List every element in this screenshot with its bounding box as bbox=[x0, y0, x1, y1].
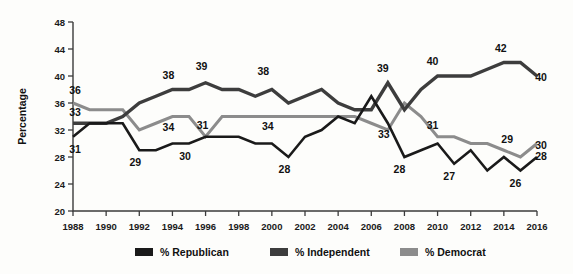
data-point-label: 36 bbox=[69, 84, 81, 96]
x-axis-tick-label: 1998 bbox=[228, 221, 249, 232]
x-axis-tick-label: 2016 bbox=[526, 221, 547, 232]
y-axis-title: Percentage bbox=[16, 88, 28, 145]
legend-label-republican: % Republican bbox=[160, 246, 229, 258]
y-axis-tick-label: 40 bbox=[54, 71, 65, 82]
x-axis-tick-label: 2010 bbox=[427, 221, 448, 232]
data-point-label: 33 bbox=[378, 128, 390, 140]
data-point-label: 34 bbox=[262, 120, 274, 132]
series-line-independent bbox=[73, 63, 537, 124]
y-axis-tick-label: 32 bbox=[54, 125, 65, 136]
data-point-label: 40 bbox=[535, 71, 547, 83]
y-axis-tick-label: 44 bbox=[54, 44, 65, 55]
data-point-label: 31 bbox=[69, 143, 81, 155]
legend-item[interactable]: % Democrat bbox=[400, 246, 486, 258]
x-axis-tick-label: 1990 bbox=[96, 221, 117, 232]
series-line-republican bbox=[73, 96, 537, 170]
data-point-label: 31 bbox=[197, 119, 209, 131]
data-point-label: 34 bbox=[163, 121, 175, 133]
data-point-label: 29 bbox=[129, 156, 141, 168]
x-axis-tick-label: 2004 bbox=[328, 221, 350, 232]
data-point-label: 33 bbox=[69, 106, 81, 118]
data-point-label: 30 bbox=[535, 139, 547, 151]
chart-container: 2024283236404448Percentage19881990199219… bbox=[0, 0, 573, 274]
legend-label-democrat: % Democrat bbox=[425, 246, 486, 258]
y-axis-tick-label: 28 bbox=[54, 152, 65, 163]
legend-item[interactable]: % Republican bbox=[135, 246, 229, 258]
data-point-label: 29 bbox=[501, 133, 513, 145]
data-point-label: 28 bbox=[535, 150, 547, 162]
x-axis-tick-label: 2012 bbox=[460, 221, 481, 232]
data-point-label: 28 bbox=[394, 163, 406, 175]
legend-swatch-independent bbox=[270, 248, 288, 256]
x-axis-tick-label: 2002 bbox=[294, 221, 315, 232]
y-axis-tick-label: 24 bbox=[54, 179, 65, 190]
x-axis-tick-label: 2014 bbox=[493, 221, 515, 232]
data-point-label: 42 bbox=[495, 42, 507, 54]
x-axis-tick-label: 2000 bbox=[261, 221, 282, 232]
x-axis-tick-label: 1988 bbox=[62, 221, 83, 232]
data-point-label: 30 bbox=[179, 150, 191, 162]
data-point-label: 38 bbox=[257, 65, 269, 77]
legend-item[interactable]: % Independent bbox=[270, 246, 370, 258]
data-point-label: 40 bbox=[427, 55, 439, 67]
legend-swatch-democrat bbox=[400, 248, 418, 256]
data-point-label: 39 bbox=[377, 62, 389, 74]
line-chart: 2024283236404448Percentage19881990199219… bbox=[0, 0, 573, 274]
series-line-democrat bbox=[73, 103, 537, 157]
y-axis-tick-label: 48 bbox=[54, 17, 65, 28]
y-axis-tick-label: 36 bbox=[54, 98, 65, 109]
x-axis-tick-label: 1996 bbox=[195, 221, 216, 232]
y-axis-tick-label: 20 bbox=[54, 206, 65, 217]
legend-label-independent: % Independent bbox=[295, 246, 370, 258]
x-axis-tick-label: 1992 bbox=[129, 221, 150, 232]
data-point-label: 38 bbox=[163, 69, 175, 81]
data-point-label: 28 bbox=[279, 163, 291, 175]
data-point-label: 31 bbox=[427, 119, 439, 131]
data-point-label: 26 bbox=[510, 177, 522, 189]
x-axis-tick-label: 2006 bbox=[361, 221, 382, 232]
x-axis-tick-label: 1994 bbox=[162, 221, 184, 232]
data-point-label: 27 bbox=[443, 170, 455, 182]
x-axis-tick-label: 2008 bbox=[394, 221, 415, 232]
legend-swatch-republican bbox=[135, 248, 153, 256]
data-point-label: 39 bbox=[196, 60, 208, 72]
